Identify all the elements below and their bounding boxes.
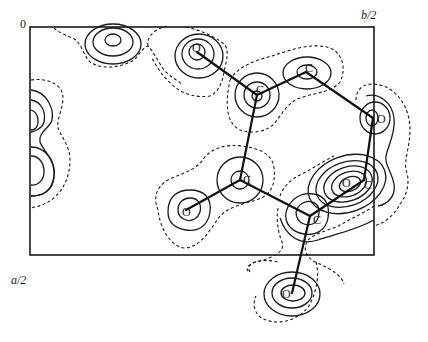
a-axis-label: a/2: [11, 273, 26, 287]
atom-label-O1: O: [192, 41, 201, 55]
peak-left-edge: [31, 80, 70, 209]
origin-label: 0: [20, 17, 26, 31]
atom-label-C2: C: [305, 61, 313, 75]
peak-C1-C2: [227, 46, 343, 132]
atom-label-O4: O: [342, 176, 351, 190]
b-axis-label: b/2: [361, 8, 376, 22]
peak-O1: [148, 26, 227, 97]
atom-label-C4: C: [313, 213, 321, 227]
atom-label-O2: O: [377, 112, 386, 126]
density-map-svg: 0 b/2 a/2: [0, 0, 428, 342]
density-map-figure: 0 b/2 a/2: [0, 0, 428, 342]
atom-label-C5: C: [364, 178, 372, 192]
atom-label-O3: O: [182, 205, 191, 219]
atom-label-C1: C: [256, 83, 264, 97]
atom-label-C3: C: [243, 173, 251, 187]
atom-label-O5: O: [282, 287, 291, 301]
peak-C3-O3: [156, 146, 275, 249]
